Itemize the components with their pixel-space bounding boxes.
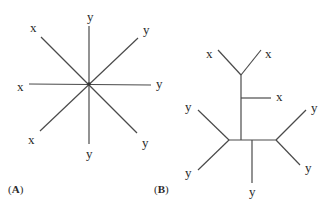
edge (241, 50, 261, 75)
leaf-label: x (265, 46, 272, 61)
leaf-label: y (249, 184, 256, 199)
leaf-label: x (30, 20, 37, 35)
leaf-label: x (276, 89, 283, 104)
leaf-label: y (185, 99, 192, 114)
edge (198, 110, 229, 140)
leaf-label: y (86, 146, 93, 161)
panel-b-bifurcating-tree: x x x y y y y y (B) (154, 46, 318, 199)
leaf-label: y (87, 9, 94, 24)
edge (198, 140, 229, 170)
leaf-label: y (305, 160, 312, 175)
diagram-canvas: x y y x y x y y (A) x x x y y y y y (B) (0, 0, 330, 209)
leaf-label: x (206, 46, 213, 61)
center-node (87, 82, 91, 86)
leaf-label: y (156, 76, 163, 91)
panel-label-b: (B) (154, 183, 169, 196)
leaf-label: y (143, 22, 150, 37)
panel-label-a: (A) (8, 183, 24, 196)
edge (218, 50, 241, 75)
edge (276, 110, 306, 140)
leaf-label: x (28, 132, 35, 147)
edge (276, 140, 300, 165)
leaf-label: x (17, 79, 24, 94)
leaf-label: y (142, 135, 149, 150)
leaf-label: y (311, 100, 318, 115)
panel-a-star-tree: x y y x y x y y (A) (8, 9, 163, 196)
leaf-label: y (185, 165, 192, 180)
